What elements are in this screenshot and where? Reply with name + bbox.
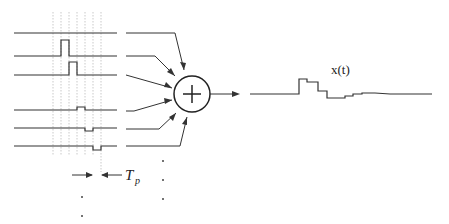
period-label: T (125, 167, 135, 183)
output-label: x(t) (331, 62, 350, 77)
output-arrow (210, 91, 240, 97)
signal-2 (14, 62, 117, 75)
signal-3 (14, 107, 117, 110)
period-annotation: T p (72, 167, 140, 186)
signal-5 (14, 146, 117, 150)
summing-junction (174, 76, 210, 112)
signal-1 (14, 40, 117, 56)
period-subscript: p (134, 175, 140, 186)
pulse-sum-diagram: x(t) T p (0, 0, 449, 224)
output-signal (250, 79, 432, 98)
time-slot-grid (53, 12, 101, 172)
ellipsis-dots (81, 160, 164, 217)
input-signals (14, 33, 117, 150)
signal-4 (14, 128, 117, 131)
